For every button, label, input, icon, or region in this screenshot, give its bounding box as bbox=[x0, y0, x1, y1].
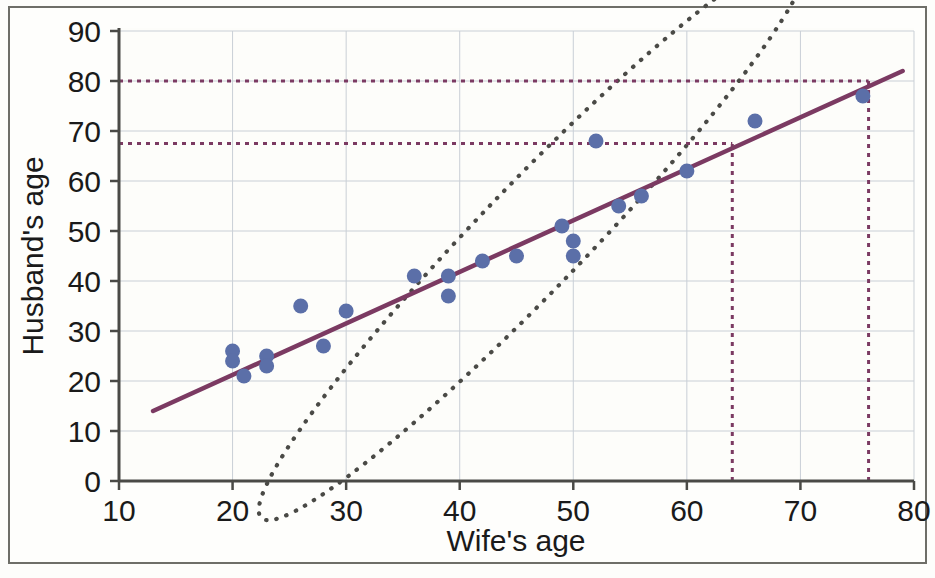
y-tick-label: 50 bbox=[68, 215, 101, 248]
data-point bbox=[566, 234, 581, 249]
x-tick-label: 60 bbox=[670, 494, 703, 527]
x-axis-ticks: 1020304050607080 bbox=[102, 481, 930, 527]
y-tick-label: 20 bbox=[68, 365, 101, 398]
x-tick-label: 30 bbox=[329, 494, 362, 527]
y-tick-label: 90 bbox=[68, 15, 101, 48]
data-point bbox=[634, 189, 649, 204]
x-axis-title: Wife's age bbox=[446, 524, 585, 557]
data-point bbox=[509, 249, 524, 264]
y-axis-ticks: 0102030405060708090 bbox=[68, 15, 119, 498]
data-point bbox=[679, 164, 694, 179]
data-point bbox=[236, 369, 251, 384]
y-tick-label: 80 bbox=[68, 65, 101, 98]
data-point bbox=[589, 134, 604, 149]
x-tick-label: 20 bbox=[216, 494, 249, 527]
data-point bbox=[225, 354, 240, 369]
y-axis-title: Husband's age bbox=[16, 156, 49, 355]
y-tick-label: 0 bbox=[84, 465, 101, 498]
x-tick-label: 70 bbox=[784, 494, 817, 527]
data-point bbox=[293, 299, 308, 314]
y-tick-label: 40 bbox=[68, 265, 101, 298]
data-point bbox=[339, 304, 354, 319]
data-point bbox=[259, 359, 274, 374]
x-tick-label: 40 bbox=[443, 494, 476, 527]
x-tick-label: 50 bbox=[557, 494, 590, 527]
scatter-plot-figure: 1020304050607080 0102030405060708090 Wif… bbox=[0, 0, 935, 578]
y-tick-label: 60 bbox=[68, 165, 101, 198]
x-tick-label: 80 bbox=[897, 494, 930, 527]
data-point bbox=[407, 269, 422, 284]
data-point bbox=[855, 89, 870, 104]
y-tick-label: 10 bbox=[68, 415, 101, 448]
data-point bbox=[554, 219, 569, 234]
data-point bbox=[611, 199, 626, 214]
data-point bbox=[566, 249, 581, 264]
y-tick-label: 30 bbox=[68, 315, 101, 348]
data-point bbox=[748, 114, 763, 129]
data-point bbox=[316, 339, 331, 354]
x-tick-label: 10 bbox=[102, 494, 135, 527]
data-point bbox=[441, 289, 456, 304]
data-point bbox=[441, 269, 456, 284]
plot-canvas: 1020304050607080 0102030405060708090 Wif… bbox=[0, 0, 935, 578]
data-point bbox=[475, 254, 490, 269]
y-tick-label: 70 bbox=[68, 115, 101, 148]
